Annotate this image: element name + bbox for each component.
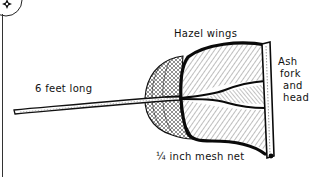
label-ash-line-1: Ash xyxy=(278,56,309,68)
label-ash-line-4: head xyxy=(283,92,309,104)
label-ash-fork-head: Ash fork and head xyxy=(278,56,309,104)
label-hazel-wings: Hazel wings xyxy=(174,28,237,39)
label-handle-length: 6 feet long xyxy=(35,83,92,94)
badge-ornament-icon xyxy=(0,0,22,177)
label-ash-line-3: and xyxy=(283,80,309,92)
label-ash-line-2: fork xyxy=(280,68,309,80)
label-mesh-net: ¼ inch mesh net xyxy=(156,151,245,162)
